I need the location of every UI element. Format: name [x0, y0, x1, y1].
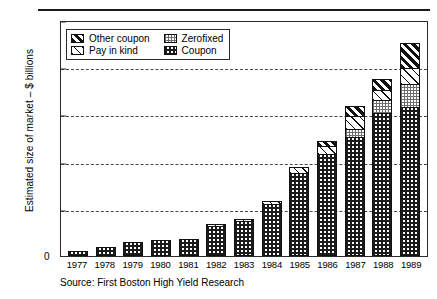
bar-1987[interactable]: [345, 22, 365, 256]
bar-1985[interactable]: [289, 22, 309, 256]
bar-segment-coupon: [372, 113, 392, 256]
bar-segment-coupon: [206, 226, 226, 256]
x-tick-label: 1986: [315, 259, 341, 270]
legend-item: Zerofixed: [164, 33, 224, 44]
legend-item: Coupon: [164, 45, 224, 56]
legend-swatch-other-coupon: [71, 34, 84, 43]
x-axis-tick-labels: 1977197819791980198119821983198419851986…: [60, 259, 428, 270]
x-tick-label: 1982: [203, 259, 229, 270]
bar-segment-coupon: [68, 251, 88, 256]
x-tick-label: 1989: [398, 259, 424, 270]
x-tick-label: 1980: [147, 259, 173, 270]
x-tick-label: 1978: [92, 259, 118, 270]
bar-segment-coupon: [179, 239, 199, 256]
bar-segment-coupon: [151, 240, 171, 256]
bar-segment-coupon: [262, 204, 282, 256]
header-rule: [38, 9, 430, 11]
source-note: Source: First Boston High Yield Research: [60, 277, 244, 288]
bar-1989[interactable]: [400, 22, 420, 256]
bar-1983[interactable]: [234, 22, 254, 256]
bar-segment-coupon: [400, 107, 420, 256]
x-tick-label: 1987: [342, 259, 368, 270]
bar-1988[interactable]: [372, 22, 392, 256]
chart-legend: Other couponZerofixedPay in kindCoupon: [66, 29, 230, 60]
legend-label: Other coupon: [89, 33, 150, 44]
bar-segment-zerofixed: [400, 84, 420, 108]
legend-label: Zerofixed: [182, 33, 224, 44]
legend-item: Other coupon: [71, 33, 150, 44]
bar-segment-coupon: [123, 242, 143, 256]
legend-swatch-coupon: [164, 46, 177, 55]
y-axis-zero-label: 0: [44, 251, 50, 262]
bar-segment-coupon: [96, 247, 116, 256]
bar-segment-pay-in-kind: [400, 68, 420, 85]
legend-item: Pay in kind: [71, 45, 150, 56]
x-tick-label: 1985: [287, 259, 313, 270]
bar-1984[interactable]: [262, 22, 282, 256]
bar-segment-coupon: [317, 154, 337, 256]
x-tick-label: 1979: [120, 259, 146, 270]
bar-segment-other-coupon: [400, 43, 420, 69]
bar-segment-coupon: [234, 221, 254, 256]
legend-label: Coupon: [182, 45, 217, 56]
bar-segment-coupon: [345, 137, 365, 256]
legend-swatch-pay-in-kind: [71, 46, 84, 55]
legend-label: Pay in kind: [89, 45, 138, 56]
bar-segment-coupon: [289, 173, 309, 256]
x-tick-label: 1984: [259, 259, 285, 270]
bar-1986[interactable]: [317, 22, 337, 256]
chart-figure: Estimated size of market – $ billions 0 …: [0, 0, 437, 299]
x-tick-label: 1988: [370, 259, 396, 270]
x-tick-label: 1983: [231, 259, 257, 270]
y-axis-title: Estimated size of market – $ billions: [24, 16, 35, 246]
x-tick-label: 1981: [175, 259, 201, 270]
legend-swatch-zerofixed: [164, 34, 177, 43]
x-tick-label: 1977: [64, 259, 90, 270]
